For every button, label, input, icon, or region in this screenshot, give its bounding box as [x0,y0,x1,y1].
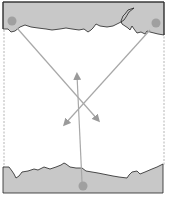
force-diagram [0,0,170,200]
top-right-pin-icon [152,19,161,28]
string-top-left [17,28,98,120]
top-left-pin-icon [8,17,17,26]
bottom-pin-icon [79,182,88,191]
top-torn-region [3,2,164,35]
string-top-right [65,30,150,124]
string-bottom [77,75,82,182]
diagram-stage [0,0,170,200]
